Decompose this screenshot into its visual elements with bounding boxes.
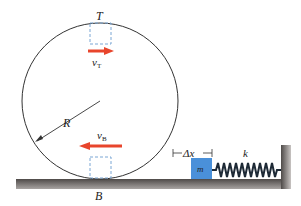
compression-label: Δx bbox=[182, 147, 194, 159]
velocity-top-arrow-icon bbox=[88, 47, 114, 55]
top-position-box bbox=[90, 23, 111, 44]
ground bbox=[16, 179, 288, 189]
loop-track-diagram: T B R vT vB Δx m k bbox=[0, 0, 301, 206]
top-point-label: T bbox=[96, 9, 104, 23]
bottom-position-box bbox=[90, 157, 111, 178]
spring-constant-label: k bbox=[243, 147, 249, 159]
velocity-bottom-label: vB bbox=[97, 129, 107, 143]
spring-icon bbox=[212, 163, 281, 177]
mass-label: m bbox=[197, 164, 204, 174]
bottom-point-label: B bbox=[95, 189, 103, 203]
wall bbox=[281, 145, 291, 189]
radius-label: R bbox=[62, 116, 71, 130]
velocity-bottom-arrow-icon bbox=[79, 142, 122, 150]
velocity-top-label: vT bbox=[92, 56, 102, 70]
